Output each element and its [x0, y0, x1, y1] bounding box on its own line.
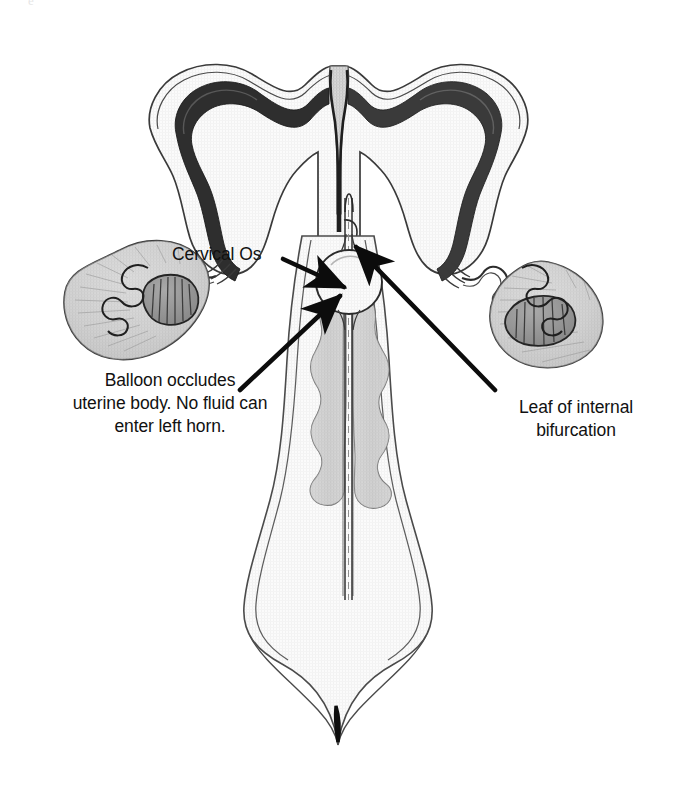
label-balloon-occludes: Balloon occludes uterine body. No fluid … [54, 369, 286, 438]
figure-root: e [0, 0, 678, 794]
occlusion-balloon [316, 250, 382, 314]
vulvar-slit [336, 706, 339, 742]
right-ovary-group [490, 261, 603, 367]
label-cervical-os: Cervical Os [172, 243, 261, 266]
right-corpus-luteum [505, 296, 575, 346]
label-leaf-of-internal-bifurcation: Leaf of internal bifurcation [486, 396, 666, 442]
